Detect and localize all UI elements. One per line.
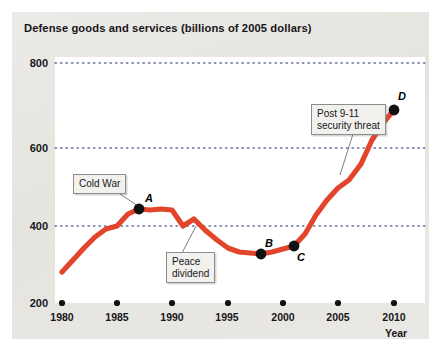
plot-svg <box>0 0 439 347</box>
callout-peace-dividend: Peace dividend <box>166 252 215 283</box>
callout-cold-war: Cold War <box>73 174 126 194</box>
x-tick-dots <box>59 300 397 306</box>
point-d-marker <box>389 105 400 116</box>
point-label-c: C <box>297 251 305 263</box>
point-b-marker <box>256 249 267 260</box>
point-label-d: D <box>398 90 406 102</box>
point-label-a: A <box>145 192 153 204</box>
point-a-marker <box>134 204 145 215</box>
point-c-marker <box>289 241 300 252</box>
chart-figure: Defense goods and services (billions of … <box>0 0 439 347</box>
point-label-b: B <box>265 237 273 249</box>
callout-post-911: Post 9-11 security threat <box>311 104 386 135</box>
